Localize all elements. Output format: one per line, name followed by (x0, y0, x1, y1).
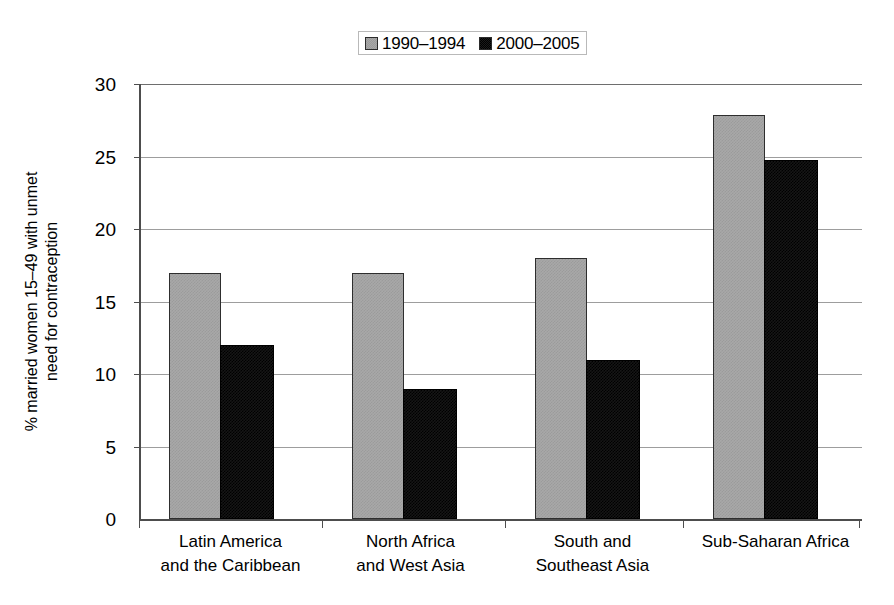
bar-group-sub-saharan-africa (713, 84, 846, 519)
x-category-latin-america: Latin America and the Caribbean (134, 530, 327, 578)
x-category-south-southeast-asia: South and Southeast Asia (501, 530, 684, 578)
y-tick-label-25: 25 (95, 147, 116, 166)
legend-item-1990-1994: 1990–1994 (365, 35, 465, 52)
x-axis-category-labels: Latin America and the Caribbean North Af… (139, 530, 860, 590)
x-category-latin-america-line-1: Latin America (134, 530, 327, 554)
x-category-sub-saharan-africa-line-1: Sub-Saharan Africa (684, 530, 867, 554)
bar-group-latin-america (169, 84, 302, 519)
x-category-north-africa: North Africa and West Asia (319, 530, 502, 578)
y-tick-label-15: 15 (95, 292, 116, 311)
legend-label-2000-2005: 2000–2005 (496, 35, 579, 52)
x-axis-tick-1 (322, 519, 323, 528)
x-axis-tick-2 (505, 519, 506, 528)
bar-2000-2005-south-southeast-asia[interactable] (586, 360, 640, 520)
legend-swatch-black-icon (479, 37, 492, 50)
bar-1990-1994-south-southeast-asia[interactable] (535, 258, 587, 519)
x-axis-tick-3 (683, 519, 684, 528)
bar-1990-1994-north-africa[interactable] (352, 273, 404, 520)
x-category-latin-america-line-2: and the Caribbean (134, 554, 327, 578)
bar-2000-2005-latin-america[interactable] (220, 345, 274, 519)
y-tick-label-30: 30 (95, 75, 116, 94)
y-tick-label-10: 10 (95, 365, 116, 384)
x-category-sub-saharan-africa: Sub-Saharan Africa (684, 530, 867, 554)
legend-swatch-gray-icon (365, 37, 378, 50)
x-category-north-africa-line-2: and West Asia (319, 554, 502, 578)
legend-item-2000-2005: 2000–2005 (479, 35, 579, 52)
y-tick-label-5: 5 (105, 437, 116, 456)
chart-legend: 1990–1994 2000–2005 (358, 31, 587, 55)
plot-inner (141, 84, 862, 519)
legend-label-1990-1994: 1990–1994 (382, 35, 465, 52)
plot-area (139, 84, 862, 521)
chart-figure: 1990–1994 2000–2005 % married women 15–4… (0, 0, 894, 605)
y-tick-label-0: 0 (105, 510, 116, 529)
x-category-south-southeast-asia-line-1: South and (501, 530, 684, 554)
bar-2000-2005-north-africa[interactable] (403, 389, 457, 520)
bar-group-south-southeast-asia (535, 84, 668, 519)
bar-group-north-africa (352, 84, 485, 519)
x-category-south-southeast-asia-line-2: Southeast Asia (501, 554, 684, 578)
bar-2000-2005-sub-saharan-africa[interactable] (764, 160, 818, 520)
x-category-north-africa-line-1: North Africa (319, 530, 502, 554)
bar-1990-1994-sub-saharan-africa[interactable] (713, 115, 765, 520)
y-axis-tick-labels: 0 5 10 15 20 25 30 (0, 84, 128, 519)
x-axis-tick-4 (859, 519, 860, 528)
bar-1990-1994-latin-america[interactable] (169, 273, 221, 520)
y-tick-label-20: 20 (95, 220, 116, 239)
bar-groups (141, 84, 862, 519)
x-axis-tick-0 (139, 519, 140, 528)
